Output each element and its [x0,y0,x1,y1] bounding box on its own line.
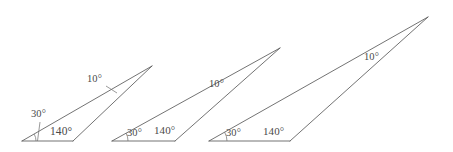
triangle-3-angle-140-label: 140° [263,126,284,137]
triangle-2-angle-140-label: 140° [154,125,175,136]
triangle-1-angle-140-label: 140° [50,126,72,138]
triangle-3 [209,17,428,141]
triangle-1-angle-30-arc [34,134,36,141]
triangle-1-angle-30-label: 30° [31,109,46,120]
triangle-3-right-edge [290,17,428,141]
triangle-2-angle-30-label: 30° [127,128,142,139]
triangle-1-angle-10-label: 10° [87,74,102,85]
triangle-3-angle-10-label: 10° [364,52,379,63]
similar-triangles-figure: 30° 140° 10° 30° 140° 10° 30° 140° 10° [0,0,453,152]
triangle-3-long-edge [209,17,428,141]
triangle-3-angle-30-label: 30° [226,128,241,139]
triangle-2-angle-10-label: 10° [209,79,224,90]
